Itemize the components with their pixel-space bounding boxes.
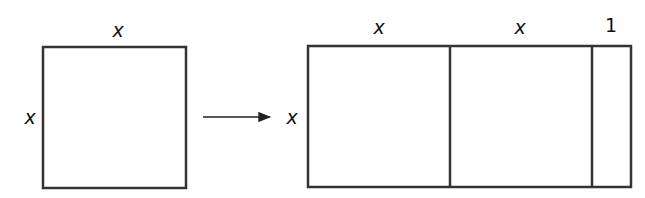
right-rectangle bbox=[308, 46, 631, 187]
algebra-tiles-diagram: x x x x x 1 bbox=[0, 0, 645, 198]
left-side-label: x bbox=[23, 106, 36, 128]
right-side-label: x bbox=[285, 106, 298, 128]
segment-label-1: x bbox=[372, 16, 385, 38]
segment-label-2: x bbox=[513, 16, 526, 38]
left-square bbox=[43, 47, 186, 188]
segment-label-3: 1 bbox=[605, 14, 617, 36]
left-top-label: x bbox=[111, 19, 124, 41]
